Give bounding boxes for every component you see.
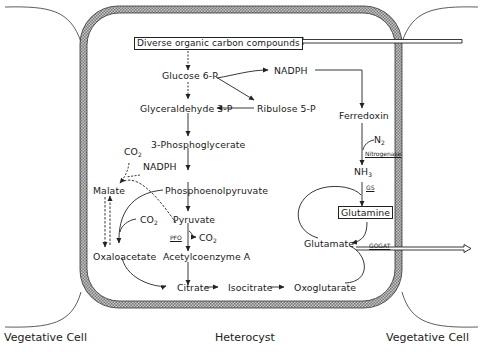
node-phosphoenolpyruvate: Phosphoenolpyruvate	[165, 186, 268, 195]
node-citrate: Citrate	[177, 283, 209, 292]
node-nadph-left: NADPH	[143, 162, 177, 171]
node-n2: N2	[374, 135, 385, 146]
enzyme-gogat: GOGAT	[369, 243, 390, 249]
node-nadph-top: NADPH	[274, 66, 308, 75]
node-3-phosphoglycerate: 3-Phosphoglycerate	[151, 140, 245, 149]
enzyme-gs: GS	[366, 185, 374, 191]
node-glutamate: Glutamate	[304, 239, 354, 248]
node-co2-mid: CO2	[140, 215, 158, 226]
caption-heterocyst: Heterocyst	[215, 332, 275, 343]
caption-vegetative-cell-right: Vegetative Cell	[386, 332, 469, 343]
node-diverse-organic-carbon-compounds: Diverse organic carbon compounds	[134, 37, 303, 50]
node-oxaloacetate: Oxaloacetate	[93, 252, 156, 261]
caption-vegetative-cell-left: Vegetative Cell	[4, 332, 87, 343]
node-pyruvate: Pyruvate	[173, 215, 215, 224]
node-ribulose-5-p: Ribulose 5-P	[257, 104, 316, 113]
node-isocitrate: Isocitrate	[228, 283, 273, 292]
node-ferredoxin: Ferredoxin	[339, 111, 389, 120]
node-malate: Malate	[93, 186, 125, 195]
node-glutamine: Glutamine	[338, 206, 393, 219]
enzyme-pfo: PFO	[170, 235, 182, 241]
node-glyceraldehyde-3-p: Glyceraldehyde 3-P	[140, 104, 233, 113]
node-oxoglutarate: Oxoglutarate	[294, 283, 356, 292]
enzyme-nitrogenase: Nitrogenase	[365, 151, 401, 157]
pathway-diagram	[0, 0, 483, 352]
node-acetylcoenzyme-a: Acetylcoenzyme A	[163, 252, 250, 261]
node-co2-pfo: CO2	[199, 233, 217, 244]
node-glucose-6-p: Glucose 6-P	[162, 71, 218, 80]
node-co2-top: CO2	[124, 147, 142, 158]
node-nh3: NH3	[354, 167, 372, 178]
